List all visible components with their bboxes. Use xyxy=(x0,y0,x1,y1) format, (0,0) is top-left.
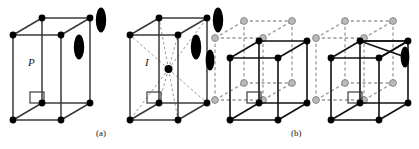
cell-b2-atoms xyxy=(328,38,412,124)
cell-b1-gray-edges xyxy=(215,21,292,100)
panel-b-caption: (b) xyxy=(291,128,302,138)
translated-lattice-cell-2 xyxy=(313,18,412,124)
cell-i-lens-marker-mid xyxy=(191,35,201,60)
panel-a-caption: (a) xyxy=(96,128,106,138)
cell-i-body-center-atom xyxy=(165,65,173,73)
cell-b1-gray-atoms xyxy=(212,18,296,104)
cell-b2-gray-edges xyxy=(316,21,393,100)
cell-b1-lens-marker-left xyxy=(206,50,215,71)
cell-p-lens-marker-mid xyxy=(74,35,84,60)
translated-lattice-cell-1 xyxy=(206,18,311,124)
cell-i-lens-marker-top xyxy=(213,8,223,33)
cell-b2-gray-atoms xyxy=(313,18,397,104)
cell-b1-atoms xyxy=(227,38,311,124)
cell-p-label: P xyxy=(27,56,35,68)
primitive-cell: P xyxy=(10,8,107,124)
cell-i-label: I xyxy=(144,56,150,68)
cell-p-lens-marker-top xyxy=(96,8,106,33)
crystal-unit-cell-figure: P xyxy=(0,0,419,149)
cell-p-edges xyxy=(13,18,90,120)
cell-b2-lens-marker-right xyxy=(401,47,410,68)
figure-canvas: P xyxy=(0,0,419,149)
cell-p-atoms xyxy=(10,15,94,124)
